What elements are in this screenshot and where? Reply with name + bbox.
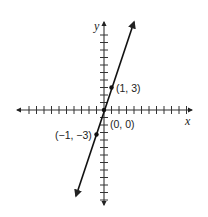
coordinate-plane: x y (1, 3) (0, 0) (−1, −3) [0, 0, 208, 217]
point-label-1-3: (1, 3) [116, 82, 141, 94]
point-neg1-neg3 [94, 132, 98, 136]
y-axis-label: y [93, 19, 100, 33]
point-1-3 [109, 85, 113, 89]
point-origin [102, 108, 106, 112]
x-axis-label: x [184, 114, 191, 128]
point-label-origin: (0, 0) [110, 118, 135, 130]
point-label-neg1-neg3: (−1, −3) [55, 129, 92, 141]
